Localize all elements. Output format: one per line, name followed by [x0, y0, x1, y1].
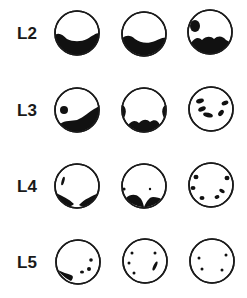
dark-region — [80, 270, 84, 273]
spinal-section-figure: L2 L3 L4 L5 — [0, 0, 247, 298]
cross-section — [55, 88, 99, 132]
dark-region — [87, 267, 91, 271]
row-l3: L3 — [17, 87, 233, 132]
dark-region — [221, 269, 224, 272]
cross-section — [122, 88, 166, 132]
row-l4: L4 — [17, 163, 233, 208]
dark-region — [200, 196, 205, 200]
dark-region — [60, 106, 68, 114]
dark-region — [149, 188, 151, 190]
cross-section — [122, 164, 166, 208]
dark-region — [225, 176, 230, 180]
dark-region — [133, 272, 136, 275]
dark-region — [198, 257, 201, 260]
cross-section — [55, 11, 99, 56]
cross-section — [189, 163, 233, 207]
cross-section — [190, 239, 234, 283]
dark-region — [194, 175, 199, 179]
dark-region — [89, 258, 93, 262]
dark-region — [201, 268, 204, 271]
row-label: L3 — [17, 101, 37, 120]
row-l2: L2 — [17, 10, 232, 56]
dark-region — [190, 20, 200, 32]
cross-section — [188, 10, 232, 54]
row-label: L5 — [17, 253, 37, 272]
cross-section — [123, 239, 167, 283]
dark-region — [128, 120, 160, 132]
dark-region — [191, 186, 196, 190]
dark-region — [191, 36, 230, 54]
row-label: L4 — [17, 177, 37, 196]
cross-section — [189, 87, 233, 131]
dark-region — [128, 262, 131, 265]
cross-section — [122, 12, 166, 56]
dark-region — [131, 252, 134, 255]
cross-section — [56, 240, 100, 284]
dark-region — [225, 254, 228, 257]
dark-region — [154, 252, 157, 255]
cross-section — [55, 164, 99, 208]
row-l5: L5 — [17, 239, 234, 284]
row-label: L2 — [17, 24, 37, 43]
